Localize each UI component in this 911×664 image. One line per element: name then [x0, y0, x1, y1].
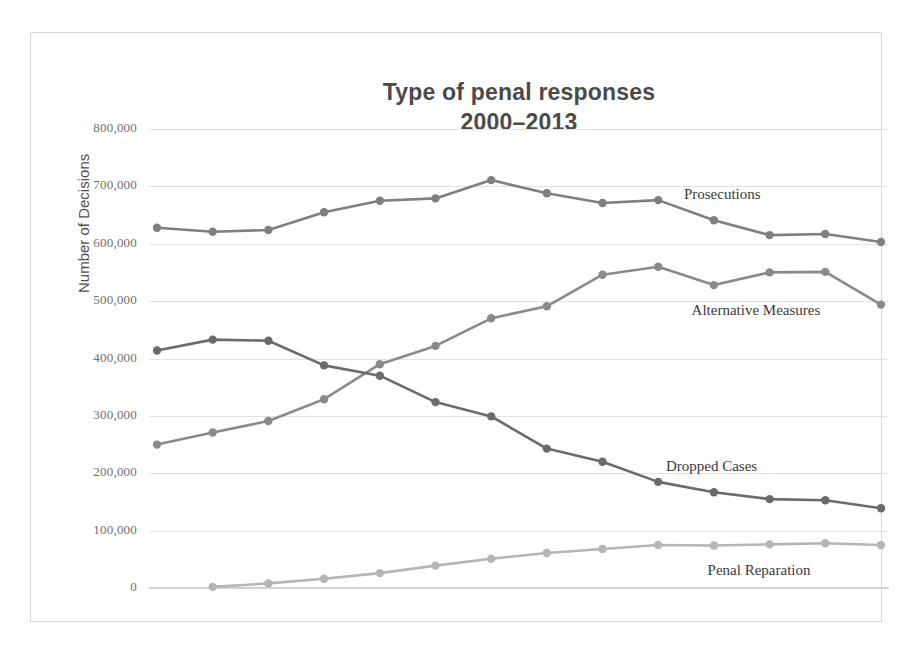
- y-tick-label: 800,000: [51, 120, 137, 136]
- gridline: [149, 588, 889, 589]
- data-point-marker: [320, 361, 328, 369]
- data-point-marker: [543, 302, 551, 310]
- data-point-marker: [153, 224, 161, 232]
- data-point-marker: [264, 337, 272, 345]
- data-point-marker: [543, 444, 551, 452]
- data-point-marker: [376, 360, 384, 368]
- data-point-marker: [821, 539, 829, 547]
- data-point-marker: [765, 268, 773, 276]
- data-point-marker: [710, 541, 718, 549]
- y-tick-label: 700,000: [51, 177, 137, 193]
- data-point-marker: [487, 412, 495, 420]
- data-point-marker: [487, 314, 495, 322]
- data-point-marker: [598, 458, 606, 466]
- y-axis-title: Number of Decisions: [75, 154, 92, 293]
- data-point-marker: [264, 417, 272, 425]
- series-label-dropped-cases: Dropped Cases: [666, 458, 757, 475]
- series-layer: [153, 176, 885, 591]
- series-label-penal-reparation: Penal Reparation: [708, 562, 811, 579]
- data-point-marker: [654, 263, 662, 271]
- data-point-marker: [153, 346, 161, 354]
- data-point-marker: [598, 199, 606, 207]
- data-point-marker: [376, 197, 384, 205]
- data-point-marker: [431, 561, 439, 569]
- data-point-marker: [487, 176, 495, 184]
- data-point-marker: [877, 541, 885, 549]
- data-point-marker: [598, 545, 606, 553]
- data-point-marker: [654, 478, 662, 486]
- data-point-marker: [877, 504, 885, 512]
- data-point-marker: [209, 428, 217, 436]
- data-point-marker: [710, 216, 718, 224]
- data-point-marker: [765, 231, 773, 239]
- data-point-marker: [765, 540, 773, 548]
- data-point-marker: [209, 228, 217, 236]
- data-point-marker: [543, 549, 551, 557]
- series-label-prosecutions: Prosecutions: [684, 186, 761, 203]
- y-tick-label: 300,000: [51, 407, 137, 423]
- data-point-marker: [376, 372, 384, 380]
- data-point-marker: [710, 281, 718, 289]
- y-tick-label: 600,000: [51, 235, 137, 251]
- y-tick-label: 200,000: [51, 464, 137, 480]
- data-point-marker: [320, 208, 328, 216]
- data-point-marker: [877, 300, 885, 308]
- chart-figure: Type of penal responses 2000–2013 Number…: [0, 0, 911, 664]
- data-point-marker: [431, 342, 439, 350]
- plot-area: 0100,000200,000300,000400,000500,000600,…: [149, 129, 889, 588]
- data-point-marker: [153, 440, 161, 448]
- data-point-marker: [320, 575, 328, 583]
- data-point-marker: [877, 238, 885, 246]
- data-point-marker: [821, 230, 829, 238]
- data-point-marker: [821, 496, 829, 504]
- data-point-marker: [209, 335, 217, 343]
- y-tick-label: 100,000: [51, 522, 137, 538]
- data-point-marker: [654, 541, 662, 549]
- chart-title-main: Type of penal responses: [383, 79, 656, 105]
- data-point-marker: [710, 488, 718, 496]
- chart-frame: Type of penal responses 2000–2013 Number…: [30, 32, 882, 622]
- data-point-marker: [431, 398, 439, 406]
- data-point-marker: [209, 583, 217, 591]
- series-label-alternative-measures: Alternative Measures: [692, 302, 821, 319]
- data-point-marker: [264, 226, 272, 234]
- y-tick-label: 400,000: [51, 350, 137, 366]
- data-point-marker: [543, 189, 551, 197]
- data-point-marker: [376, 569, 384, 577]
- y-tick-label: 500,000: [51, 292, 137, 308]
- data-point-marker: [487, 555, 495, 563]
- data-point-marker: [598, 271, 606, 279]
- data-point-marker: [320, 395, 328, 403]
- data-point-marker: [654, 196, 662, 204]
- data-point-marker: [431, 194, 439, 202]
- data-point-marker: [765, 495, 773, 503]
- y-tick-label: 0: [51, 579, 137, 595]
- chart-plot-svg: [149, 129, 889, 588]
- data-point-marker: [264, 579, 272, 587]
- data-point-marker: [821, 268, 829, 276]
